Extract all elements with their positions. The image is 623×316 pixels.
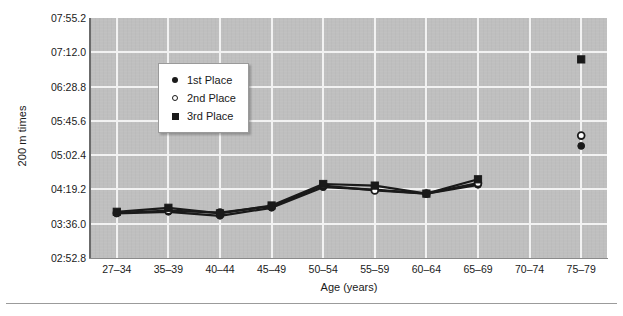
y-axis-tick-label: 05:02.4 xyxy=(30,150,86,161)
y-axis-tick-label: 02:52.8 xyxy=(30,253,86,264)
x-axis-spine xyxy=(89,258,608,259)
legend-item[interactable]: 1st Place xyxy=(168,71,236,89)
plot-area xyxy=(91,18,607,258)
y-axis-tick-label: 06:28.8 xyxy=(30,81,86,92)
y-axis-tick-label: 04:19.2 xyxy=(30,184,86,195)
y-axis-tick-label: 05:45.6 xyxy=(30,116,86,127)
legend-item-label: 1st Place xyxy=(187,74,232,86)
legend-item[interactable]: 2nd Place xyxy=(168,89,236,107)
series-1st-place xyxy=(113,143,584,220)
y-axis-tick-label: 07:12.0 xyxy=(30,47,86,58)
x-axis-tick-label: 75–79 xyxy=(546,263,616,275)
data-point-filled-square xyxy=(320,180,327,187)
legend-marker-filled-square-icon xyxy=(168,109,182,123)
legend-item[interactable]: 3rd Place xyxy=(168,107,236,125)
legend-marker-open-circle-icon xyxy=(168,91,182,105)
data-point-filled-square xyxy=(268,202,275,209)
chart-legend: 1st Place2nd Place3rd Place xyxy=(158,63,249,133)
data-point-filled-square xyxy=(216,210,223,217)
y-axis-tick-label: 07:55.2 xyxy=(30,13,86,24)
chart-figure: 200 m times 07:55.207:12.006:28.805:45.6… xyxy=(0,0,623,316)
data-point-filled-circle xyxy=(578,143,585,150)
y-axis-tick-label: 03:36.0 xyxy=(30,218,86,229)
data-point-filled-square xyxy=(578,56,585,63)
data-point-filled-square xyxy=(371,182,378,189)
y-axis-title: 200 m times xyxy=(16,76,28,196)
data-point-filled-square xyxy=(113,208,120,215)
data-point-filled-square xyxy=(165,204,172,211)
series-layer xyxy=(91,18,607,258)
legend-item-label: 2nd Place xyxy=(187,92,236,104)
footer-rule xyxy=(6,303,617,304)
series-2nd-place xyxy=(113,132,584,216)
data-point-open-circle xyxy=(578,132,585,139)
x-axis-title: Age (years) xyxy=(91,281,607,293)
legend-marker-filled-circle-icon xyxy=(168,73,182,87)
y-axis-tick-labels: 07:55.207:12.006:28.805:45.605:02.404:19… xyxy=(30,18,86,258)
legend-item-label: 3rd Place xyxy=(187,110,233,122)
data-point-filled-square xyxy=(474,176,481,183)
x-axis-tick-labels: 27–3435–3940–4445–4950–5455–5960–6465–69… xyxy=(91,263,607,279)
data-point-filled-square xyxy=(423,190,430,197)
